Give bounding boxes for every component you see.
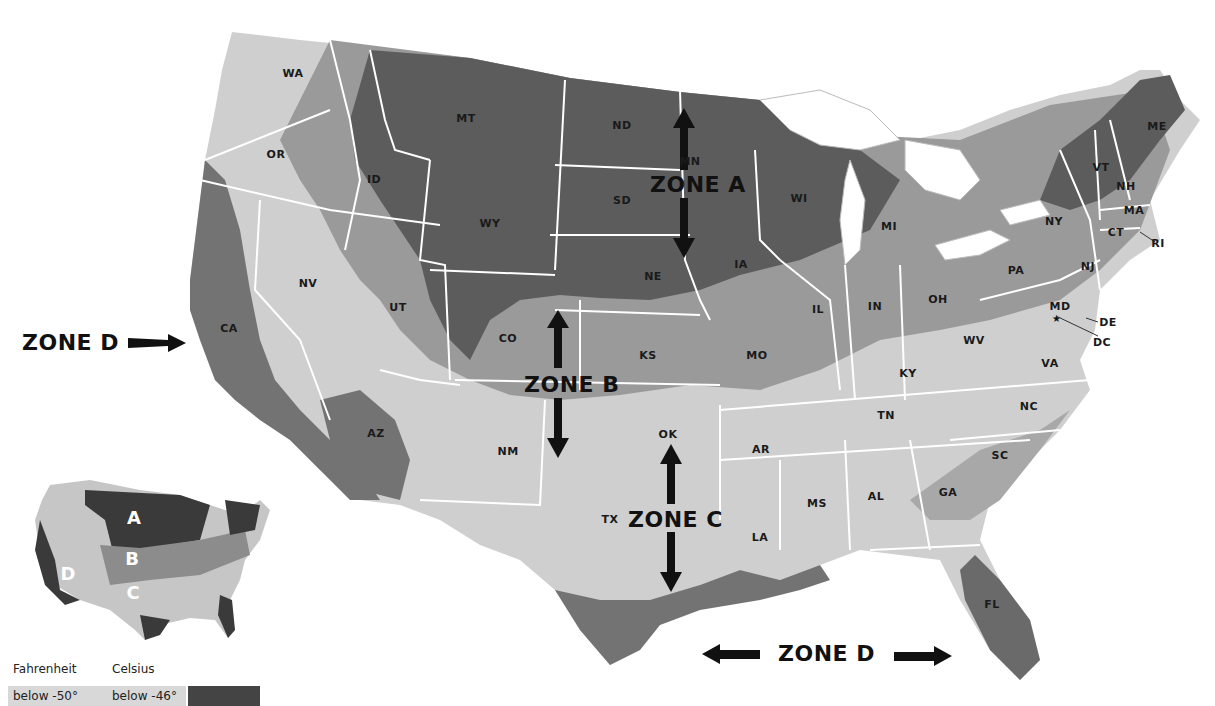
state-label-al: AL [868, 490, 885, 503]
capital-star-icon: ★ [1052, 313, 1061, 324]
state-label-fl: FL [984, 598, 1000, 611]
state-label-la: LA [752, 531, 769, 544]
legend-celsius-header: Celsius [112, 662, 155, 676]
inset-label-a: A [127, 507, 141, 528]
state-label-ks: KS [639, 349, 656, 362]
legend-fahrenheit-value: below -50° [13, 689, 78, 703]
state-label-ca: CA [220, 322, 238, 335]
inset-label-c: C [126, 582, 139, 603]
state-label-or: OR [267, 148, 286, 161]
state-label-wy: WY [479, 217, 500, 230]
zone-d-west-arrow-icon [128, 334, 186, 352]
zone-d-west-label: ZONE D [22, 330, 119, 355]
inset-label-d: D [61, 563, 76, 584]
state-label-id: ID [367, 173, 381, 186]
state-label-vt: VT [1092, 161, 1109, 174]
zone-d-south-label: ZONE D [778, 641, 875, 666]
inset-map [35, 480, 270, 640]
state-label-nc: NC [1020, 400, 1038, 413]
state-label-de: DE [1099, 316, 1117, 329]
state-label-ma: MA [1124, 204, 1144, 217]
state-label-co: CO [499, 332, 517, 345]
legend-color-swatch [188, 686, 260, 706]
state-label-mi: MI [881, 220, 897, 233]
zone-d-right-arrow-icon [894, 646, 952, 666]
state-label-il: IL [812, 303, 824, 316]
state-label-ar: AR [752, 443, 770, 456]
state-label-ky: KY [899, 367, 917, 380]
state-label-mo: MO [746, 349, 767, 362]
state-label-ny: NY [1045, 215, 1063, 228]
state-label-ms: MS [807, 497, 827, 510]
state-label-tn: TN [877, 409, 895, 422]
state-label-tx: TX [602, 513, 619, 526]
zone-b-arrow-up-shaft [554, 322, 562, 368]
state-label-ct: CT [1108, 226, 1125, 239]
state-label-ok: OK [659, 428, 678, 441]
state-label-dc: DC [1093, 336, 1111, 349]
state-label-mt: MT [456, 112, 475, 125]
state-label-ga: GA [939, 486, 958, 499]
state-label-ri: RI [1151, 237, 1165, 250]
state-label-ia: IA [734, 258, 748, 271]
state-label-nj: NJ [1081, 260, 1095, 273]
zone-b-arrow-down-shaft [554, 398, 562, 440]
state-label-az: AZ [367, 427, 385, 440]
state-label-oh: OH [928, 293, 948, 306]
state-label-md: MD [1049, 300, 1070, 313]
state-label-in: IN [868, 300, 882, 313]
state-label-nm: NM [497, 445, 518, 458]
state-label-ut: UT [389, 301, 406, 314]
inset-label-b: B [125, 548, 139, 569]
state-label-wv: WV [963, 334, 985, 347]
zone-c-label: ZONE C [628, 507, 723, 532]
zone-a-label: ZONE A [650, 172, 746, 197]
state-label-ne: NE [644, 270, 662, 283]
state-label-wi: WI [790, 192, 807, 205]
state-label-va: VA [1041, 357, 1058, 370]
legend-celsius-value: below -46° [112, 689, 177, 703]
state-label-nv: NV [299, 277, 318, 290]
state-label-sd: SD [613, 194, 631, 207]
zone-b-label: ZONE B [524, 372, 620, 397]
state-label-nh: NH [1116, 180, 1135, 193]
zone-d-left-arrow-icon [702, 644, 760, 664]
state-label-me: ME [1147, 120, 1166, 133]
legend-fahrenheit-header: Fahrenheit [13, 662, 76, 676]
state-label-sc: SC [992, 449, 1009, 462]
zone-a-arrow-down-shaft [680, 198, 688, 240]
zone-c-arrow-down-shaft [667, 532, 675, 578]
state-label-nd: ND [612, 119, 631, 132]
state-label-pa: PA [1008, 264, 1025, 277]
state-label-wa: WA [282, 67, 303, 80]
zone-c-arrow-up-shaft [667, 458, 675, 504]
state-label-mn: MN [679, 155, 700, 168]
